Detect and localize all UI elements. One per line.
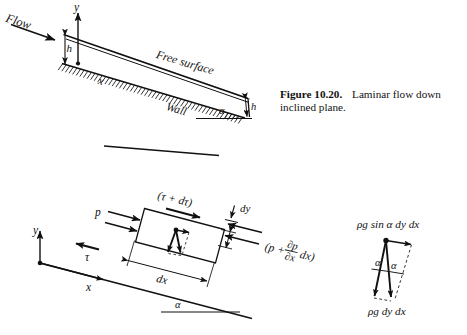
shear-bottom-arrow: [76, 244, 99, 250]
film-end-cap: [248, 99, 250, 118]
top-origin-dot: [76, 61, 80, 65]
force-top-label: ρg sin α dy dx: [357, 219, 419, 230]
pressure-right-prefix: (p +: [264, 240, 286, 256]
dy-dimension-arrow: [231, 206, 235, 219]
top-depth-label-right: h: [251, 102, 256, 113]
wall-hatching: [58, 64, 242, 124]
pressure-left-label: p: [95, 207, 101, 219]
lower-diagram-group: [38, 206, 262, 319]
top-angle-label: α: [219, 106, 225, 117]
figure-caption: Figure 10.20. Laminar flow down inclined…: [280, 88, 462, 115]
pressure-left-arrow-1: [108, 212, 140, 221]
pressure-left-arrow-2: [105, 223, 137, 232]
force-bottom-label: ρg dy dx: [368, 306, 406, 317]
pressure-right-arrow-2: [225, 236, 259, 245]
force-dashed-right: [395, 245, 412, 299]
lower-x-axis-label: x: [86, 282, 91, 294]
force-dashed-bottom: [374, 298, 391, 301]
lower-y-axis-label: y: [33, 225, 38, 237]
fluid-element-box: [136, 209, 225, 264]
stray-rule-line: [104, 146, 219, 156]
pressure-right-arrow-1: [228, 224, 262, 233]
top-depth-label-left: h: [67, 43, 73, 54]
dy-label: dy: [240, 203, 250, 214]
lower-x-axis-arrow: [40, 263, 103, 280]
force-angle-label-left: α: [375, 258, 381, 269]
force-angle-ref-right: [389, 272, 404, 275]
lower-angle-label: α: [175, 300, 181, 311]
pressure-right-suffix: dx): [296, 248, 316, 264]
shear-bottom-label: τ: [85, 252, 89, 264]
incline-line-tail: [250, 318, 252, 319]
top-y-axis-label: y: [74, 2, 79, 14]
figure-10-20: Flow y h x Free surface Wall α h Figure …: [0, 0, 467, 335]
dx-ext-right: [207, 262, 215, 287]
dy-dimension-tick: [225, 220, 238, 223]
force-angle-label-right: α: [391, 261, 397, 272]
figure-caption-label: Figure 10.20.: [280, 88, 342, 100]
force-component-arrow: [386, 241, 411, 245]
pressure-gradient-denominator: ∂x: [283, 250, 298, 263]
dy-dimension-right: [226, 232, 230, 248]
top-diagram-group: [11, 13, 252, 124]
